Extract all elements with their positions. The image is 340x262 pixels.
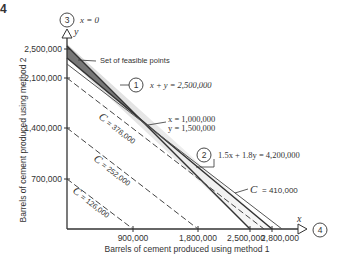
x-tick-label: 900,000 xyxy=(118,233,149,243)
shaded-band xyxy=(67,44,272,229)
y-tick-label: 2,500,000 xyxy=(24,44,62,54)
cost-label-126000: C = 126,000 xyxy=(71,184,113,220)
x-tick-label: 1,800,000 xyxy=(179,233,217,243)
lp-diagram: 4 y x 2,500,000 2,100,000 1,400,000 700,… xyxy=(0,0,340,262)
constraint-1-equation: x + y = 2,500,000 xyxy=(149,80,212,90)
svg-text:= 378,000: = 378,000 xyxy=(105,118,137,145)
vertex-y-label: y = 1,500,000 xyxy=(168,123,215,133)
y-axis-arrow-icon xyxy=(62,29,72,38)
figure-number: 4 xyxy=(0,2,7,16)
y-ticks: 2,500,000 2,100,000 1,400,000 700,000 xyxy=(24,44,70,184)
y-axis-label: Barrels of cement produced using method … xyxy=(18,57,28,222)
cost-label-252000: C = 252,000 xyxy=(92,152,134,188)
constraint-1-number: 1 xyxy=(134,80,139,90)
x-tick-label: 2,800,000 xyxy=(261,233,299,243)
y-tick-label: 2,100,000 xyxy=(24,73,62,83)
y-tick-label: 700,000 xyxy=(31,174,62,184)
y-var-label: y xyxy=(73,26,79,37)
constraint-2-equation: 1.5x + 1.8y = 4,200,000 xyxy=(218,150,300,160)
x-var-label: x xyxy=(296,213,302,224)
svg-text:= 126,000: = 126,000 xyxy=(79,192,111,219)
constraint-3-equation: x = 0 xyxy=(79,15,100,25)
cost-label-410000-c: C xyxy=(250,183,258,195)
y-tick-label: 1,400,000 xyxy=(24,123,62,133)
constraint-2-number: 2 xyxy=(202,150,207,160)
x-tick-label: 2,500,000 xyxy=(227,233,265,243)
feasible-set-label: Set of feasible points xyxy=(100,56,170,65)
leader-410000 xyxy=(235,189,248,193)
constraint-3-number: 3 xyxy=(65,15,70,25)
constraint-4-number: 4 xyxy=(318,225,323,235)
cost-label-410000-eq: = 410,000 xyxy=(262,186,298,195)
x-axis-label: Barrels of cement produced using method … xyxy=(105,244,270,254)
x-axis-arrow-icon xyxy=(298,224,307,234)
